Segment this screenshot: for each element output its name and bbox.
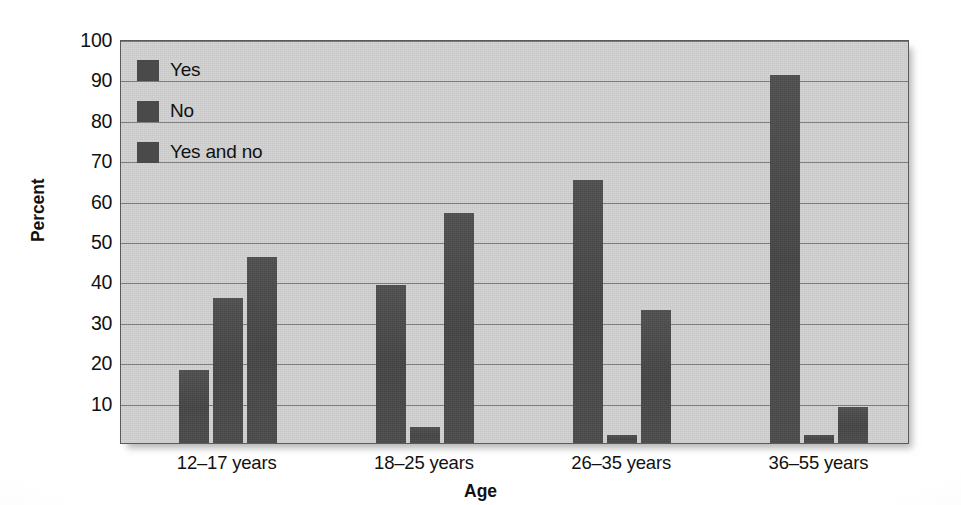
legend-swatch-no-icon bbox=[137, 101, 159, 122]
legend-label-no: No bbox=[170, 100, 194, 122]
bar-yes-0 bbox=[179, 370, 209, 443]
y-axis-tick-label: 100 bbox=[4, 29, 112, 52]
legend-item-yes: Yes bbox=[137, 51, 357, 89]
y-axis-tick-labels: 100908070605040302010 bbox=[0, 40, 112, 444]
x-axis-title: Age bbox=[0, 481, 961, 502]
y-axis-tick-label: 80 bbox=[4, 109, 112, 132]
x-axis-tick-label: 12–17 years bbox=[177, 452, 277, 474]
legend-label-yes-and-no: Yes and no bbox=[170, 141, 262, 163]
legend-swatch-yes-icon bbox=[137, 60, 159, 81]
bar-no-2 bbox=[607, 435, 637, 443]
plot-area: Yes No Yes and no bbox=[120, 40, 909, 444]
bar-yes-and-no-2 bbox=[641, 310, 671, 443]
legend: Yes No Yes and no bbox=[137, 51, 357, 174]
x-axis-tick-label: 18–25 years bbox=[374, 452, 474, 474]
bar-no-3 bbox=[804, 435, 834, 443]
legend-swatch-yes-and-no-icon bbox=[137, 142, 159, 163]
bar-yes-and-no-1 bbox=[444, 213, 474, 443]
x-axis-tick-label: 26–35 years bbox=[571, 452, 671, 474]
bar-yes-3 bbox=[770, 75, 800, 443]
y-axis-tick-label: 10 bbox=[4, 392, 112, 415]
x-axis-tick-labels: 12–17 years18–25 years26–35 years36–55 y… bbox=[120, 452, 909, 482]
x-axis-tick-label: 36–55 years bbox=[769, 452, 869, 474]
legend-item-yes-and-no: Yes and no bbox=[137, 133, 357, 171]
y-axis-tick-label: 20 bbox=[4, 352, 112, 375]
y-axis-tick-label: 70 bbox=[4, 150, 112, 173]
y-axis-tick-label: 90 bbox=[4, 69, 112, 92]
bar-no-0 bbox=[213, 298, 243, 443]
y-axis-tick-label: 30 bbox=[4, 311, 112, 334]
bar-yes-and-no-0 bbox=[247, 257, 277, 443]
legend-label-yes: Yes bbox=[170, 59, 200, 81]
bar-yes-1 bbox=[376, 285, 406, 443]
gridline bbox=[121, 41, 908, 42]
bar-yes-and-no-3 bbox=[838, 407, 868, 443]
bar-no-1 bbox=[410, 427, 440, 443]
y-axis-tick-label: 50 bbox=[4, 231, 112, 254]
y-axis-tick-label: 60 bbox=[4, 190, 112, 213]
legend-item-no: No bbox=[137, 92, 357, 130]
bar-yes-2 bbox=[573, 180, 603, 443]
y-axis-tick-label: 40 bbox=[4, 271, 112, 294]
bar-chart-figure: Percent 100908070605040302010 Yes No Yes… bbox=[0, 0, 961, 505]
